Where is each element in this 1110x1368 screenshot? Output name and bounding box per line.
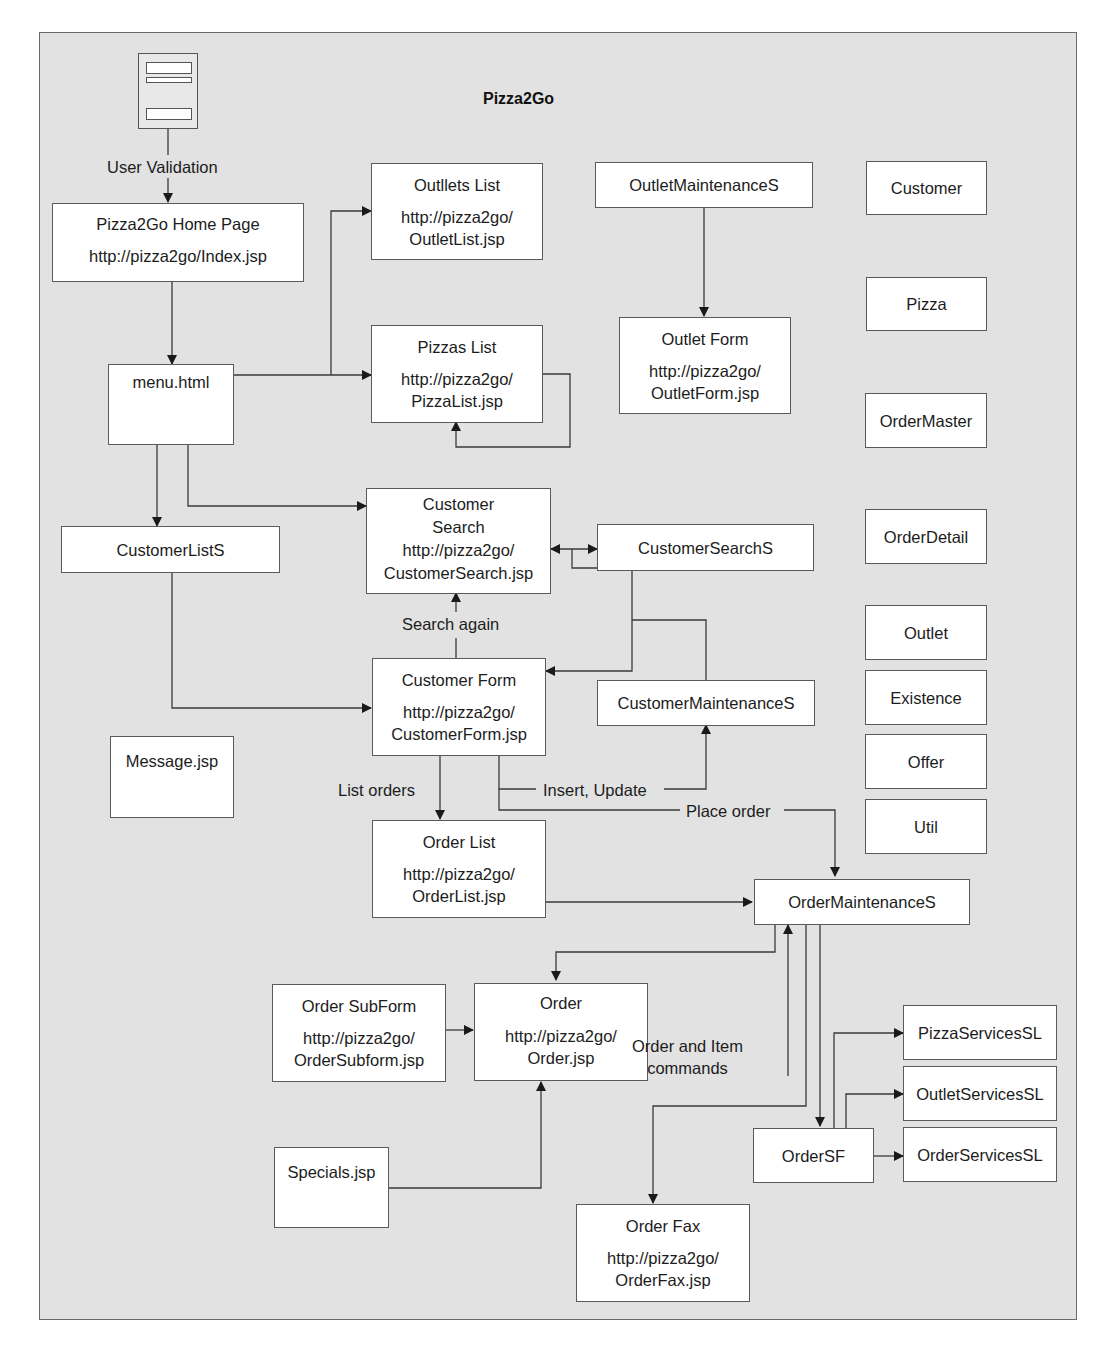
- node-order-subform: Order SubForm http://pizza2go/ OrderSubf…: [272, 984, 446, 1082]
- node-specials-jsp: Specials.jsp: [274, 1147, 389, 1228]
- node-url: http://pizza2go/: [403, 701, 515, 723]
- node-title: menu.html: [132, 371, 209, 393]
- node-title: Specials.jsp: [287, 1161, 375, 1183]
- node-menu-html: menu.html: [108, 364, 234, 445]
- username-field-glyph: [146, 62, 192, 74]
- node-url: http://pizza2go/Index.jsp: [89, 245, 267, 267]
- entity-outlet: Outlet: [865, 605, 987, 660]
- node-title: Search: [432, 516, 484, 539]
- node-url: http://pizza2go/: [403, 539, 515, 562]
- node-url: http://pizza2go/: [505, 1025, 617, 1047]
- node-customer-search: Customer Search http://pizza2go/ Custome…: [366, 488, 551, 594]
- node-url: OrderFax.jsp: [615, 1269, 710, 1291]
- node-url: CustomerForm.jsp: [391, 723, 527, 745]
- node-url: http://pizza2go/: [403, 863, 515, 885]
- node-title: CustomerMaintenanceS: [617, 692, 794, 714]
- diagram-title: Pizza2Go: [483, 90, 554, 108]
- node-order: Order http://pizza2go/ Order.jsp: [474, 983, 648, 1081]
- entity-label: Existence: [890, 687, 962, 709]
- node-outlet-maintenance-servlet: OutletMaintenanceS: [595, 162, 813, 208]
- node-url: OrderList.jsp: [412, 885, 506, 907]
- node-title: PizzaServicesSL: [918, 1022, 1042, 1044]
- node-url: http://pizza2go/: [649, 360, 761, 382]
- node-customer-search-servlet: CustomerSearchS: [597, 524, 814, 571]
- edge-label-user-validation: User Validation: [107, 157, 218, 177]
- node-title: CustomerSearchS: [638, 537, 773, 559]
- node-order-list: Order List http://pizza2go/ OrderList.js…: [372, 820, 546, 918]
- edge-label-line: commands: [632, 1057, 743, 1079]
- node-title: OutletServicesSL: [916, 1083, 1043, 1105]
- node-customer-maintenance-servlet: CustomerMaintenanceS: [597, 680, 815, 726]
- node-outlet-services-sl: OutletServicesSL: [903, 1066, 1057, 1121]
- entity-offer: Offer: [865, 734, 987, 789]
- node-title: Customer Form: [402, 669, 517, 691]
- login-form-icon: [138, 53, 198, 129]
- node-title: OrderServicesSL: [917, 1144, 1043, 1166]
- node-order-fax: Order Fax http://pizza2go/ OrderFax.jsp: [576, 1204, 750, 1302]
- node-url: http://pizza2go/: [607, 1247, 719, 1269]
- node-pizzas-list: Pizzas List http://pizza2go/ PizzaList.j…: [371, 325, 543, 423]
- submit-button-glyph: [146, 108, 192, 120]
- node-pizza-services-sl: PizzaServicesSL: [903, 1005, 1057, 1060]
- node-title: Outllets List: [414, 174, 500, 196]
- node-home-page: Pizza2Go Home Page http://pizza2go/Index…: [52, 203, 304, 282]
- node-outlet-form: Outlet Form http://pizza2go/ OutletForm.…: [619, 317, 791, 414]
- node-title: OrderMaintenanceS: [788, 891, 936, 913]
- node-url: Order.jsp: [528, 1047, 595, 1069]
- edge-label-order-item-commands: Order and Item commands: [632, 1035, 743, 1079]
- node-url: http://pizza2go/: [401, 206, 513, 228]
- node-customer-list-servlet: CustomerListS: [61, 526, 280, 573]
- node-url: http://pizza2go/: [303, 1027, 415, 1049]
- entity-util: Util: [865, 799, 987, 854]
- node-title: Order Fax: [626, 1215, 700, 1237]
- node-title: Pizza2Go Home Page: [96, 213, 259, 235]
- entity-label: Outlet: [904, 622, 948, 644]
- node-order-sf: OrderSF: [753, 1128, 874, 1183]
- node-title: Pizzas List: [418, 336, 497, 358]
- node-title: CustomerListS: [116, 539, 224, 561]
- node-url: CustomerSearch.jsp: [384, 562, 533, 585]
- node-title: OrderSF: [782, 1145, 845, 1167]
- entity-order-master: OrderMaster: [865, 393, 987, 448]
- node-order-maintenance-servlet: OrderMaintenanceS: [754, 879, 970, 925]
- node-title: Order List: [423, 831, 495, 853]
- node-url: http://pizza2go/: [401, 368, 513, 390]
- edge-label-list-orders: List orders: [338, 780, 415, 800]
- edge-label-insert-update: Insert, Update: [541, 780, 649, 800]
- node-title: Outlet Form: [661, 328, 748, 350]
- node-title: Message.jsp: [126, 750, 219, 772]
- node-url: OutletForm.jsp: [651, 382, 759, 404]
- node-title: Customer: [423, 493, 495, 516]
- node-url: PizzaList.jsp: [411, 390, 503, 412]
- node-title: Order: [540, 992, 582, 1014]
- node-url: OutletList.jsp: [409, 228, 504, 250]
- entity-label: Pizza: [906, 293, 946, 315]
- entity-order-detail: OrderDetail: [865, 509, 987, 564]
- entity-label: Util: [914, 816, 938, 838]
- password-field-glyph: [146, 77, 192, 83]
- node-title: Order SubForm: [302, 995, 417, 1017]
- node-order-services-sl: OrderServicesSL: [903, 1127, 1057, 1182]
- entity-label: Customer: [891, 177, 963, 199]
- edge-label-line: Order and Item: [632, 1035, 743, 1057]
- entity-label: OrderMaster: [880, 410, 973, 432]
- edge-label-search-again: Search again: [402, 614, 499, 634]
- node-message-jsp: Message.jsp: [110, 736, 234, 818]
- edge-label-place-order: Place order: [684, 801, 772, 821]
- entity-label: OrderDetail: [884, 526, 968, 548]
- node-outlets-list: Outllets List http://pizza2go/ OutletLis…: [371, 163, 543, 260]
- node-title: OutletMaintenanceS: [629, 174, 779, 196]
- entity-pizza: Pizza: [866, 277, 987, 331]
- node-url: OrderSubform.jsp: [294, 1049, 424, 1071]
- entity-existence: Existence: [865, 670, 987, 725]
- entity-label: Offer: [908, 751, 944, 773]
- node-customer-form: Customer Form http://pizza2go/ CustomerF…: [372, 658, 546, 756]
- entity-customer: Customer: [866, 161, 987, 215]
